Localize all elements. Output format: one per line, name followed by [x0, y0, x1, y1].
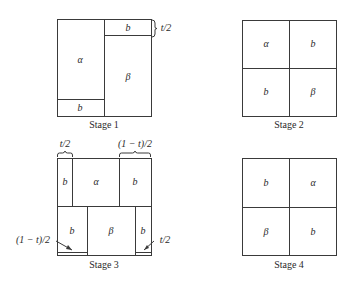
stage1-annotation-t-half: t/2 — [161, 23, 172, 33]
stage3-label-bottom-left-b: b — [70, 226, 75, 236]
stage3-annotation-bottom-right: t/2 — [160, 235, 171, 245]
stage1-label-b-bottom: b — [78, 103, 83, 113]
stage3-label-bottom-right-b: b — [141, 226, 146, 236]
stage2-label-bottom-left: b — [264, 87, 269, 97]
stage4-label-bottom-right: b — [311, 227, 316, 237]
stage3-annotation-top-right: (1 − t)/2 — [118, 139, 152, 149]
stage3-annotation-bottom-left: (1 − t)/2 — [16, 235, 50, 245]
stage4-label-bottom-left: β — [264, 227, 269, 237]
stage1-label-b-top: b — [126, 23, 131, 33]
stage3-annotation-top-left: t/2 — [60, 139, 71, 149]
stage3-label-top-alpha: α — [93, 177, 98, 187]
stage3-label-bottom-beta: β — [109, 226, 114, 236]
stage3-brace-right-icon — [120, 151, 151, 157]
stage4-label-top-left: b — [264, 178, 269, 188]
stage1-label-beta: β — [126, 72, 131, 82]
stage3-label-top-left-b: b — [63, 177, 68, 187]
stage2-caption: Stage 2 — [274, 120, 304, 130]
diagram-canvas — [0, 0, 352, 283]
stage2-label-top-right: b — [311, 39, 316, 49]
stage1-brace-icon — [152, 20, 157, 37]
stage2-label-bottom-right: β — [311, 87, 316, 97]
stage4-caption: Stage 4 — [274, 260, 304, 270]
stage4-label-top-right: α — [310, 178, 315, 188]
stage3-caption: Stage 3 — [89, 260, 119, 270]
stage1-caption: Stage 1 — [89, 120, 119, 130]
stage2-label-top-left: α — [263, 39, 268, 49]
stage1-label-alpha: α — [77, 55, 82, 65]
stage3-brace-left-icon — [58, 151, 73, 157]
stage3-label-top-right-b: b — [133, 177, 138, 187]
